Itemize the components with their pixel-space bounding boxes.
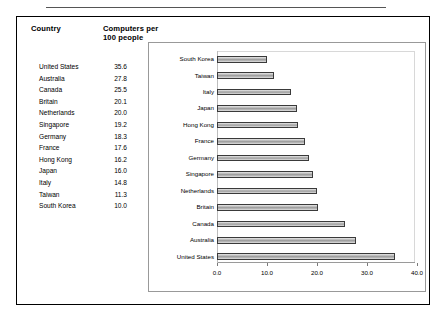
table-cell-value: 19.2 <box>103 119 127 131</box>
plot-area: South KoreaTaiwanItalyJapanHong KongFran… <box>217 51 415 263</box>
top-divider-rule <box>46 7 386 8</box>
x-axis-tick <box>267 263 268 266</box>
bar <box>217 72 274 79</box>
table-cell-value: 16.2 <box>103 154 127 166</box>
table-cell-value: 16.0 <box>103 165 127 177</box>
bar <box>217 188 317 195</box>
bar-category-label: Australia <box>190 237 214 243</box>
bar <box>217 56 267 63</box>
bar-category-label: Taiwan <box>195 73 214 79</box>
bar-row: United States <box>217 249 415 265</box>
x-axis-tick-label: 10.0 <box>261 270 273 276</box>
bar-category-label: Japan <box>197 105 214 111</box>
bar <box>217 122 298 129</box>
bar-category-label: South Korea <box>180 56 214 62</box>
content-panel: Country Computers per 100 people United … <box>16 16 430 305</box>
bar-category-label: Italy <box>203 89 214 95</box>
bar <box>217 105 297 112</box>
table-cell-value: 11.3 <box>103 189 127 201</box>
table-cell-country: Australia <box>39 73 65 85</box>
table-cell-country: Japan <box>39 165 57 177</box>
x-axis-tick-label: 0.0 <box>213 270 222 276</box>
bar <box>217 221 345 228</box>
bar-chart: South KoreaTaiwanItalyJapanHong KongFran… <box>148 42 426 292</box>
bar-category-label: Netherlands <box>181 188 214 194</box>
bar-row: Australia <box>217 232 415 248</box>
bar <box>217 171 313 178</box>
x-axis-tick-label: 30.0 <box>361 270 373 276</box>
table-header-country: Country <box>31 24 61 33</box>
bar <box>217 253 395 260</box>
table-cell-country: South Korea <box>39 200 76 212</box>
bar-category-label: Germany <box>189 155 214 161</box>
table-cell-value: 14.8 <box>103 177 127 189</box>
bar-row: Germany <box>217 150 415 166</box>
table-cell-country: United States <box>39 61 79 73</box>
bar-row: Canada <box>217 216 415 232</box>
table-header-computers-per-100-people: Computers per 100 people <box>103 24 158 43</box>
table-cell-country: France <box>39 142 60 154</box>
table-cell-value: 20.1 <box>103 96 127 108</box>
x-axis-tick <box>217 263 218 266</box>
bar-category-label: Hong Kong <box>183 122 214 128</box>
bar-row: Italy <box>217 84 415 100</box>
table-cell-country: Hong Kong <box>39 154 72 166</box>
bar <box>217 237 356 244</box>
bar <box>217 138 305 145</box>
table-cell-value: 18.3 <box>103 131 127 143</box>
bar <box>217 89 291 96</box>
bar-category-label: United States <box>177 254 214 260</box>
bar-category-label: France <box>195 138 214 144</box>
table-cell-country: Italy <box>39 177 51 189</box>
bar-category-label: Singapore <box>186 171 214 177</box>
bar <box>217 204 318 211</box>
table-cell-value: 25.5 <box>103 84 127 96</box>
bar <box>217 155 309 162</box>
table-cell-value: 10.0 <box>103 200 127 212</box>
table-cell-value: 27.8 <box>103 73 127 85</box>
table-cell-value: 35.6 <box>103 61 127 73</box>
bar-row: France <box>217 133 415 149</box>
x-axis-tick-label: 40.0 <box>411 270 423 276</box>
x-axis-tick-label: 20.0 <box>311 270 323 276</box>
bar-row: Taiwan <box>217 67 415 83</box>
bar-row: Hong Kong <box>217 117 415 133</box>
bar-row: Netherlands <box>217 183 415 199</box>
bar-row: Britain <box>217 199 415 215</box>
x-axis-tick <box>417 263 418 266</box>
table-cell-country: Germany <box>39 131 66 143</box>
table-cell-country: Taiwan <box>39 189 60 201</box>
x-axis-tick <box>317 263 318 266</box>
table-cell-country: Netherlands <box>39 107 75 119</box>
bar-row: Singapore <box>217 166 415 182</box>
bar-category-label: Britain <box>196 204 214 210</box>
x-axis-tick <box>367 263 368 266</box>
table-cell-country: Canada <box>39 84 62 96</box>
table-cell-country: Britain <box>39 96 58 108</box>
bar-category-label: Canada <box>192 221 214 227</box>
table-cell-value: 20.0 <box>103 107 127 119</box>
bar-row: Japan <box>217 100 415 116</box>
bar-row: South Korea <box>217 51 415 67</box>
table-cell-country: Singapore <box>39 119 69 131</box>
table-cell-value: 17.6 <box>103 142 127 154</box>
